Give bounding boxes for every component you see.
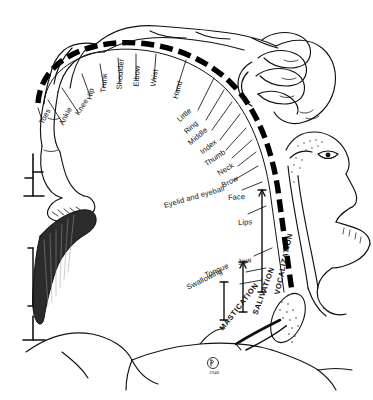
label-lips: Lips bbox=[238, 217, 253, 227]
pharynx-structure bbox=[26, 320, 352, 390]
label-trunk: Trunk bbox=[99, 73, 110, 93]
signature-year: 1948 bbox=[203, 370, 225, 376]
signature-monogram bbox=[208, 358, 219, 369]
forehead-stipple bbox=[291, 139, 322, 182]
shaded-hook-structure bbox=[23, 210, 96, 340]
tongue-stipple bbox=[279, 301, 299, 343]
face-profile bbox=[286, 132, 370, 316]
cortical-strip-arc bbox=[38, 43, 292, 292]
tongue-oval bbox=[264, 288, 313, 348]
label-face: Face bbox=[228, 192, 246, 202]
motor-homunculus-figure: Toes Ankle Knee Hip Trunk Shoulder Elbow… bbox=[0, 0, 373, 400]
label-elbow: Elbow bbox=[132, 65, 142, 87]
